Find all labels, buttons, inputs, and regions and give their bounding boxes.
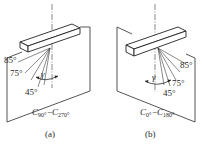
- panel-b-label-75: 75°: [172, 78, 185, 88]
- panel-a-label-45: 45°: [25, 87, 38, 97]
- panel-a-angle-rays: [18, 48, 50, 87]
- panel-b: 85° 75° 45° γ C 0° − C 180° (b): [117, 4, 195, 139]
- panel-a-label-75: 75°: [10, 68, 23, 78]
- panel-a-gamma-arc: [36, 76, 58, 80]
- figure-canvas: 85° 75° 45° γ C 90° − C 270° (a): [0, 0, 202, 148]
- panel-a-plane-label: C 90° − C 270°: [32, 107, 70, 118]
- panel-b-plane-label: C 0° − C 180°: [140, 107, 175, 118]
- svg-text:180°: 180°: [163, 112, 175, 118]
- panel-a-label-85: 85°: [4, 55, 17, 65]
- panel-a-gamma-symbol: γ: [41, 69, 45, 79]
- panel-b-gamma-symbol: γ: [152, 72, 156, 82]
- panel-a-bar: [20, 24, 80, 52]
- panel-a-caption: (a): [45, 129, 55, 139]
- panel-b-caption: (b): [145, 129, 156, 139]
- panel-a: 85° 75° 45° γ C 90° − C 270° (a): [4, 4, 90, 139]
- panel-b-gamma-arc: [145, 80, 171, 85]
- svg-text:90°: 90°: [38, 112, 47, 118]
- panel-b-bar: [126, 27, 186, 56]
- panel-b-label-85: 85°: [180, 60, 193, 70]
- svg-text:270°: 270°: [58, 112, 70, 118]
- panel-b-label-45: 45°: [163, 88, 176, 98]
